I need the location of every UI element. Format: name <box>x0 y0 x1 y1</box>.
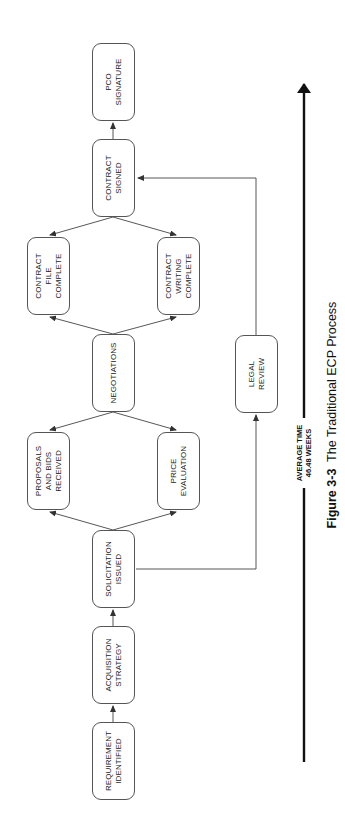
node-solicitation-issued: SOLICITATION ISSUED <box>92 530 135 608</box>
node-pco-signature: PCO SIGNATURE <box>92 43 135 121</box>
figure-caption: Figure 3-3 The Traditional ECP Process <box>325 265 339 565</box>
node-label: ACQUISITION STRATEGY <box>104 626 124 704</box>
node-contract-writing-complete: CONTRACT WRITING COMPLETE <box>157 237 200 315</box>
node-label: NEGOTIATIONS <box>109 334 119 412</box>
node-label: PROPOSALS AND BIDS RECEIVED <box>34 432 64 510</box>
node-label: LEGAL REVIEW <box>247 335 267 413</box>
figure-number: Figure 3-3 <box>325 469 339 529</box>
node-label: PCO SIGNATURE <box>104 43 124 121</box>
connector-lines <box>0 0 345 833</box>
node-acquisition-strategy: ACQUISITION STRATEGY <box>92 626 135 704</box>
node-negotiations: NEGOTIATIONS <box>92 334 135 412</box>
node-label: CONTRACT SIGNED <box>104 139 124 217</box>
figure-title: The Traditional ECP Process <box>325 302 339 462</box>
node-label: CONTRACT FILE COMPLETE <box>34 237 64 315</box>
node-label: REQUIREMENT IDENTIFIED <box>104 722 124 800</box>
node-contract-file-complete: CONTRACT FILE COMPLETE <box>27 237 70 315</box>
node-label: SOLICITATION ISSUED <box>104 530 124 608</box>
timeline-label: AVERAGE TIME 46.48 WEEKS <box>295 413 313 493</box>
node-requirement-identified: REQUIREMENT IDENTIFIED <box>92 722 135 800</box>
node-price-evaluation: PRICE EVALUATION <box>157 432 200 510</box>
node-label: CONTRACT WRITING COMPLETE <box>164 237 194 315</box>
node-contract-signed: CONTRACT SIGNED <box>92 139 135 217</box>
node-label: PRICE EVALUATION <box>169 432 189 510</box>
node-proposals-bids-received: PROPOSALS AND BIDS RECEIVED <box>27 432 70 510</box>
node-legal-review: LEGAL REVIEW <box>235 335 278 413</box>
